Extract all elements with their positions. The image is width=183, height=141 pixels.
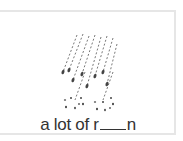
answer-blank [100,115,126,130]
flashcard: a lot of rn [0,10,176,135]
rain-icon [55,32,125,112]
caption-suffix: n [127,115,136,134]
caption: a lot of rn [0,115,176,135]
caption-prefix: a lot of r [40,115,98,134]
